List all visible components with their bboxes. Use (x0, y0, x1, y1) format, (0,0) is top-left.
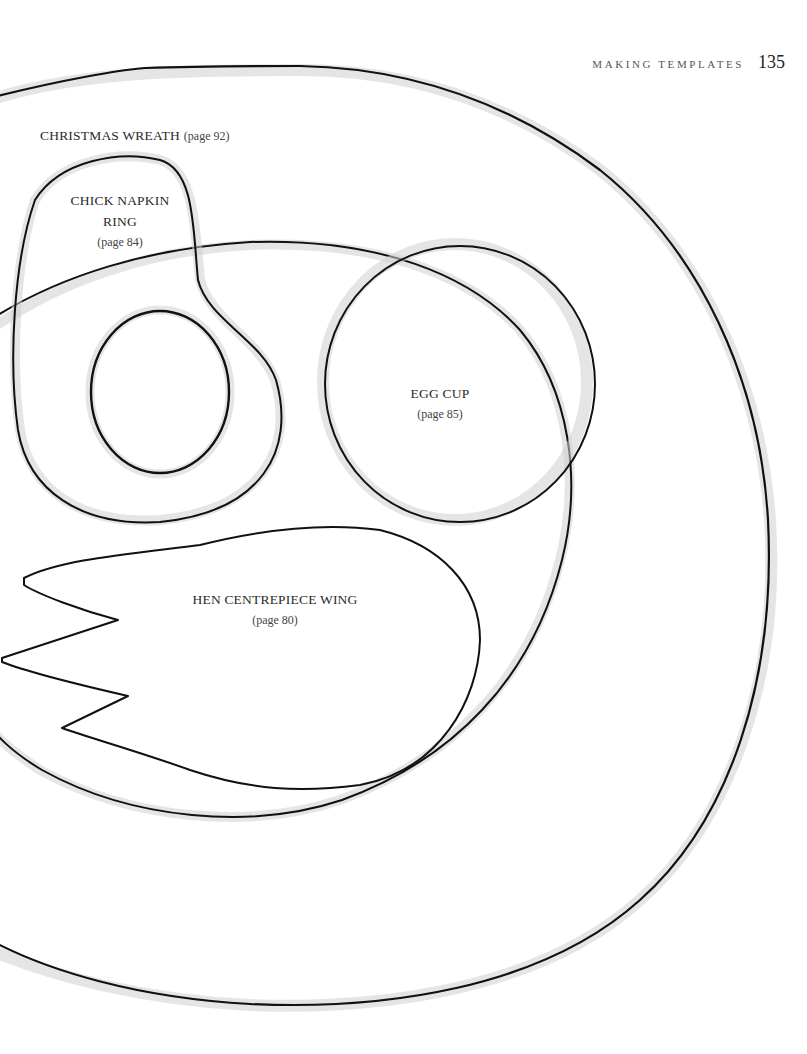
page-reference: (page 92) (184, 129, 230, 143)
template-name: CHRISTMAS WREATH (40, 128, 180, 143)
template-name: EGG CUP (380, 383, 500, 404)
running-head: MAKING TEMPLATES (592, 58, 744, 70)
hen-centrepiece-wing-label: HEN CENTREPIECE WING (page 80) (170, 589, 380, 630)
christmas-wreath-label: CHRISTMAS WREATH (page 92) (40, 125, 230, 146)
hen-wing-outline (2, 527, 480, 789)
egg-cup-label: EGG CUP (page 85) (380, 383, 500, 424)
page-reference: (page 85) (380, 404, 500, 424)
template-name: HEN CENTREPIECE WING (170, 589, 380, 610)
template-outlines (0, 0, 807, 1054)
page-reference: (page 80) (170, 610, 380, 630)
template-name-line1: CHICK NAPKIN (60, 190, 180, 211)
template-name-line2: RING (60, 211, 180, 232)
page-header: MAKING TEMPLATES 135 (592, 52, 785, 73)
chick-napkin-ring-label: CHICK NAPKIN RING (page 84) (60, 190, 180, 252)
page-number: 135 (758, 52, 785, 73)
page-reference: (page 84) (60, 232, 180, 252)
template-page: MAKING TEMPLATES 135 CHRISTMAS WREATH (p… (0, 0, 807, 1054)
